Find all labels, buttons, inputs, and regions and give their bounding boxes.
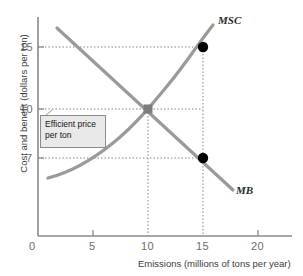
x-axis-title: Emissions (millions of tons per year) bbox=[138, 258, 291, 269]
efficient-price-annotation: Efficient price per ton bbox=[40, 115, 106, 148]
curve-label-mb: MB bbox=[236, 184, 253, 196]
x-tick-label-5: 5 bbox=[89, 240, 95, 252]
chart-figure: 0 5 10 15 20 15 10 7 Emissions (millions… bbox=[0, 0, 303, 276]
marker-efficient-point bbox=[144, 105, 153, 114]
annotation-line-1: Efficient price bbox=[45, 119, 102, 130]
annotation-line-2: per ton bbox=[45, 130, 102, 141]
x-tick-label-15: 15 bbox=[196, 240, 209, 252]
curve-label-msc: MSC bbox=[218, 14, 241, 26]
y-axis-title: Cost and benefit (dollars per ton) bbox=[18, 24, 29, 184]
x-tick-label-10: 10 bbox=[141, 240, 154, 252]
curve-msc bbox=[48, 25, 213, 178]
x-tick-label-0: 0 bbox=[29, 240, 35, 252]
x-tick-label-20: 20 bbox=[251, 240, 264, 252]
marker-mb-at-15 bbox=[198, 153, 208, 163]
marker-msc-at-15 bbox=[198, 42, 208, 52]
